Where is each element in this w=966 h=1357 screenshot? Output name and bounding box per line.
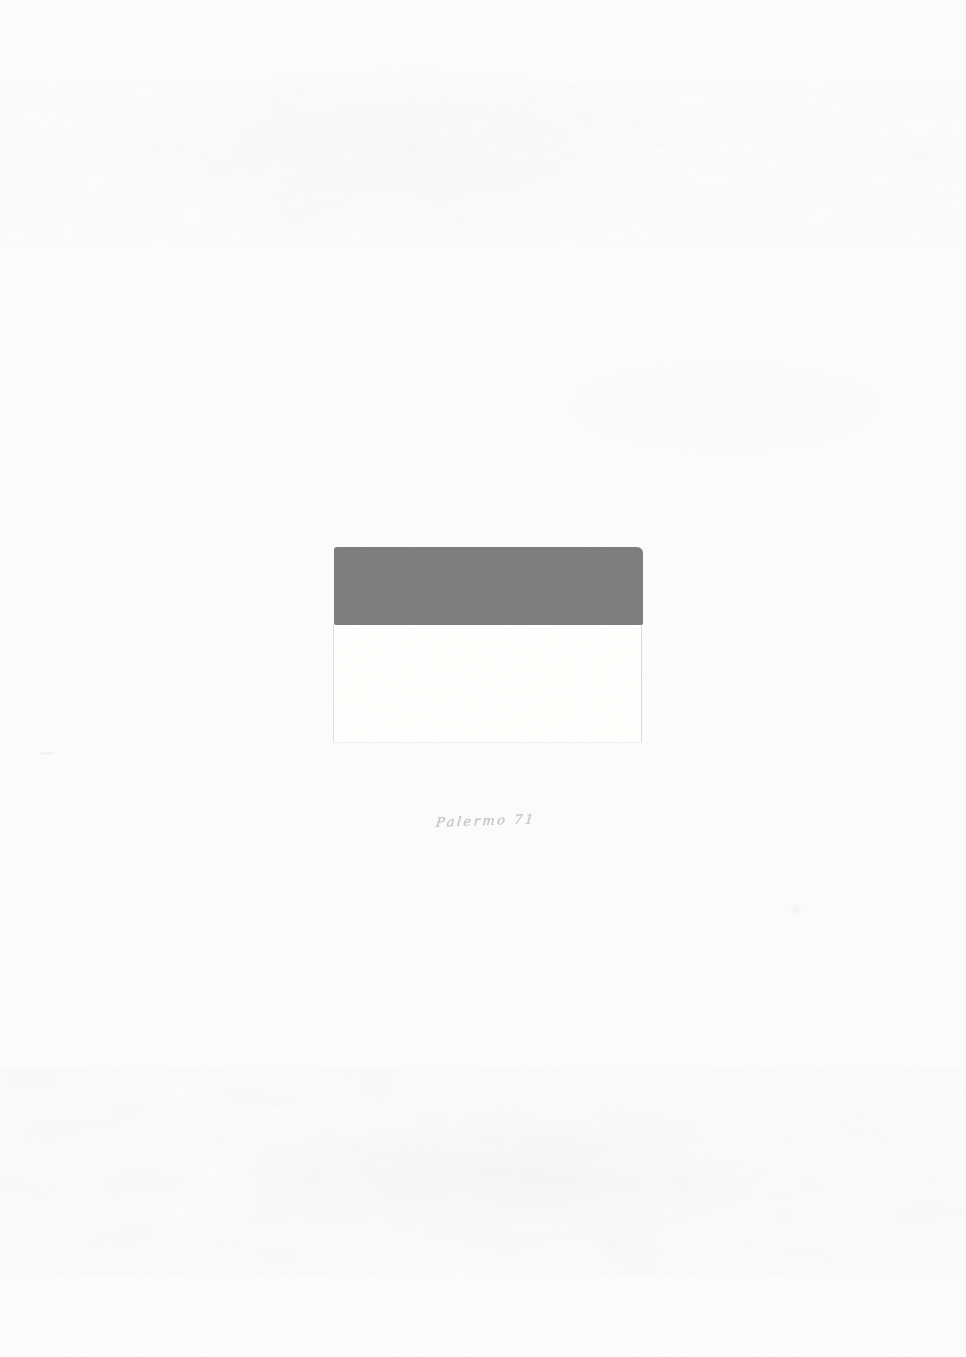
- paper-blemish: [40, 752, 53, 755]
- paper-sheet: Palermo 71: [0, 0, 966, 1357]
- gray-color-band: [334, 547, 643, 625]
- paper-blemish: [788, 903, 804, 917]
- white-panel: [333, 625, 642, 743]
- artwork-print: [333, 547, 643, 744]
- artist-signature: Palermo 71: [435, 811, 536, 830]
